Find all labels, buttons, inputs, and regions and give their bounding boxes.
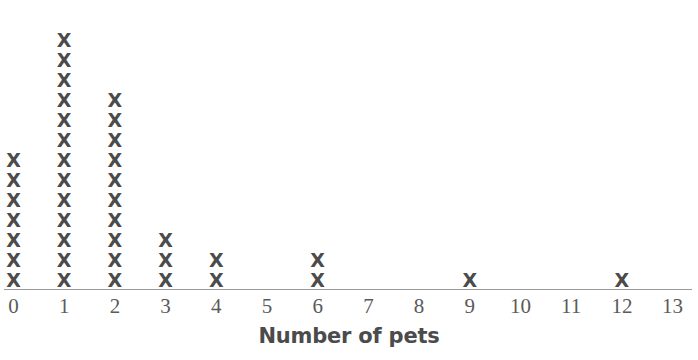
dot-mark: X: [57, 250, 72, 270]
x-axis-title: Number of pets: [0, 324, 698, 348]
dot-mark: X: [108, 210, 123, 230]
x-tick-label-6: 6: [298, 292, 338, 320]
dot-mark: X: [57, 150, 72, 170]
x-tick-label-12: 12: [602, 292, 642, 320]
dot-mark: X: [108, 150, 123, 170]
dot-column-2: XXXXXXXXXX: [95, 90, 135, 290]
dot-mark: X: [158, 250, 173, 270]
dot-mark: X: [108, 170, 123, 190]
dot-mark: X: [6, 270, 21, 290]
dot-mark: X: [310, 250, 325, 270]
x-tick-label-8: 8: [399, 292, 439, 320]
dot-mark: X: [57, 50, 72, 70]
x-tick-label-13: 13: [653, 292, 693, 320]
dot-mark: X: [108, 250, 123, 270]
dot-mark: X: [57, 190, 72, 210]
x-tick-label-2: 2: [95, 292, 135, 320]
x-tick-label-4: 4: [196, 292, 236, 320]
dot-mark: X: [108, 270, 123, 290]
dot-mark: X: [57, 90, 72, 110]
dot-column-1: XXXXXXXXXXXXX: [44, 30, 84, 290]
dot-mark: X: [57, 130, 72, 150]
dot-mark: X: [6, 230, 21, 250]
dot-mark: X: [310, 270, 325, 290]
dot-mark: X: [57, 270, 72, 290]
dot-column-9: X: [450, 270, 490, 290]
dot-mark: X: [6, 210, 21, 230]
x-axis-tick-labels: 012345678910111213: [0, 292, 698, 322]
dot-mark: X: [57, 110, 72, 130]
dot-mark: X: [6, 190, 21, 210]
x-tick-label-5: 5: [247, 292, 287, 320]
dot-mark: X: [209, 270, 224, 290]
x-tick-label-10: 10: [501, 292, 541, 320]
dot-column-6: XX: [298, 250, 338, 290]
dot-mark: X: [462, 270, 477, 290]
dot-mark: X: [108, 130, 123, 150]
dot-column-12: X: [602, 270, 642, 290]
dot-mark: X: [57, 230, 72, 250]
x-tick-label-3: 3: [146, 292, 186, 320]
dot-mark: X: [108, 110, 123, 130]
dot-mark: X: [6, 170, 21, 190]
x-axis-line: [4, 289, 692, 290]
dot-mark: X: [108, 190, 123, 210]
dot-mark: X: [6, 150, 21, 170]
dot-mark: X: [158, 270, 173, 290]
dot-mark: X: [158, 230, 173, 250]
x-tick-label-7: 7: [348, 292, 388, 320]
dot-mark: X: [108, 230, 123, 250]
dot-mark: X: [209, 250, 224, 270]
x-tick-label-1: 1: [44, 292, 84, 320]
dot-mark: X: [57, 70, 72, 90]
dot-mark: X: [57, 30, 72, 50]
dot-mark: X: [57, 210, 72, 230]
dot-plot-figure: XXXXXXXXXXXXXXXXXXXXXXXXXXXXXXXXXXXXXXX …: [0, 0, 698, 360]
dot-mark: X: [615, 270, 630, 290]
dot-column-0: XXXXXXX: [0, 150, 34, 290]
x-tick-label-0: 0: [0, 292, 34, 320]
dot-column-3: XXX: [146, 230, 186, 290]
x-tick-label-11: 11: [551, 292, 591, 320]
dot-column-4: XX: [196, 250, 236, 290]
dot-plot-area: XXXXXXXXXXXXXXXXXXXXXXXXXXXXXXXXXXXXXXX: [0, 0, 698, 290]
dot-mark: X: [6, 250, 21, 270]
dot-mark: X: [108, 90, 123, 110]
dot-mark: X: [57, 170, 72, 190]
x-tick-label-9: 9: [450, 292, 490, 320]
